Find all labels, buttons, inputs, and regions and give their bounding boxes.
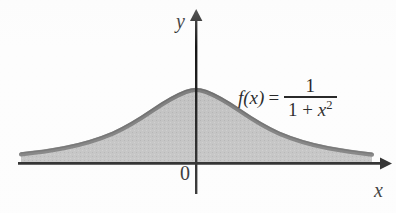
x-axis-arrowhead (380, 157, 392, 169)
function-formula: f(x) = 1 1 + x2 (238, 76, 337, 119)
formula-equals-sign: = (268, 88, 279, 107)
formula-denominator-exponent: 2 (326, 97, 332, 111)
formula-denominator-lead: 1 + (288, 99, 318, 120)
formula-fraction: 1 1 + x2 (284, 76, 336, 119)
figure-canvas: y x 0 f(x) = 1 1 + x2 (0, 0, 396, 213)
formula-numerator: 1 (298, 76, 324, 96)
y-axis-label: y (176, 11, 185, 31)
x-axis-label: x (374, 180, 383, 200)
y-axis-arrowhead (190, 9, 202, 21)
origin-label: 0 (180, 163, 190, 183)
formula-denominator-variable: x (318, 99, 326, 120)
plot-svg (0, 0, 396, 213)
formula-denominator: 1 + x2 (284, 98, 336, 119)
formula-function-name: f(x) (238, 88, 264, 107)
